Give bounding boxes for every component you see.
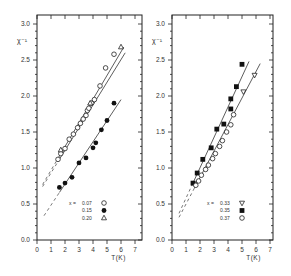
data-point-0-15 [57, 185, 62, 190]
data-point-0-37 [231, 112, 236, 117]
legend-marker [240, 201, 245, 206]
y-axis-label: χ⁻¹ [17, 37, 28, 45]
data-point-0-15 [112, 101, 117, 106]
x-tick-label: 1 [49, 246, 53, 253]
data-point-0-37 [210, 156, 215, 161]
left-panel: 012345670.00.51.01.52.02.53.0χ⁻¹T(K)x =0… [17, 15, 142, 262]
data-point-0-15 [84, 156, 89, 161]
x-axis-label: T(K) [246, 254, 261, 262]
data-point-0-37 [229, 123, 234, 128]
x-tick-label: 2 [63, 246, 67, 253]
data-point-0-07 [103, 66, 108, 71]
x-tick-label: 7 [133, 246, 137, 253]
data-point-0-37 [213, 151, 218, 156]
legend-marker [240, 208, 245, 213]
fit-0.15-line [59, 100, 121, 193]
y-tick-label: 2.5 [21, 56, 30, 63]
legend-label: 0.20 [82, 215, 92, 221]
legend-prefix: x = [69, 200, 76, 206]
y-tick-label: 0.0 [21, 236, 30, 243]
y-tick-label: 1.0 [156, 164, 165, 171]
legend-marker [240, 216, 245, 221]
x-tick-label: 0 [35, 246, 39, 253]
data-point-0-37 [220, 138, 225, 143]
x-tick-label: 5 [240, 246, 244, 253]
data-point-0-20 [119, 44, 124, 49]
chart-figure: 012345670.00.51.01.52.02.53.0χ⁻¹T(K)x =0… [0, 0, 291, 276]
data-point-0-07 [56, 157, 61, 162]
data-point-0-37 [194, 183, 199, 188]
x-tick-label: 1 [184, 246, 188, 253]
data-point-0-35 [228, 107, 233, 112]
data-point-0-15 [105, 118, 110, 123]
data-point-0-07 [67, 137, 72, 142]
fit-0.20-extrapolation [43, 159, 60, 186]
x-tick-label: 6 [119, 246, 123, 253]
y-tick-label: 0.5 [156, 200, 165, 207]
y-tick-label: 2.5 [156, 56, 165, 63]
legend-marker [102, 208, 107, 213]
data-point-0-15 [93, 140, 98, 145]
x-tick-label: 5 [105, 246, 109, 253]
x-tick-label: 3 [77, 246, 81, 253]
data-point-0-35 [214, 127, 219, 132]
y-tick-label: 3.0 [156, 20, 165, 27]
legend-marker [102, 215, 107, 220]
fit-0.15-extrapolation [44, 192, 59, 215]
data-point-0-15 [99, 127, 104, 132]
data-point-0-07 [71, 132, 76, 137]
data-point-0-35 [234, 84, 239, 89]
x-tick-label: 6 [254, 246, 258, 253]
y-tick-label: 0.5 [21, 200, 30, 207]
data-point-0-37 [206, 163, 211, 168]
y-tick-label: 1.5 [21, 128, 30, 135]
data-point-0-37 [224, 130, 229, 135]
legend-prefix: x = [207, 200, 214, 206]
y-tick-label: 3.0 [21, 20, 30, 27]
data-point-0-35 [228, 96, 233, 101]
fit-0.07-extrapolation [43, 161, 57, 185]
plot-frame [172, 15, 273, 240]
data-point-0-07 [75, 125, 80, 130]
fit-0.33-extrapolation [179, 188, 194, 217]
data-point-0-35 [209, 145, 214, 150]
plot-frame [37, 15, 142, 240]
y-tick-label: 1.5 [156, 128, 165, 135]
legend-label: 0.37 [220, 215, 230, 221]
data-point-0-35 [200, 157, 205, 162]
data-point-0-07 [63, 146, 68, 151]
legend-marker [102, 201, 107, 206]
x-tick-label: 0 [170, 246, 174, 253]
data-point-0-37 [196, 179, 201, 184]
x-tick-label: 3 [212, 246, 216, 253]
data-point-0-07 [98, 84, 103, 89]
legend-label: 0.33 [220, 200, 230, 206]
y-tick-label: 0.0 [156, 236, 165, 243]
data-point-0-07 [87, 106, 92, 111]
data-point-0-07 [92, 97, 97, 102]
y-tick-label: 1.0 [21, 164, 30, 171]
legend-label: 0.15 [82, 207, 92, 213]
data-point-0-07 [112, 52, 117, 57]
fit-0.35-extrapolation [179, 186, 192, 213]
data-point-0-35 [221, 122, 226, 127]
data-point-0-37 [203, 167, 208, 172]
data-point-0-35 [240, 62, 245, 67]
x-tick-label: 2 [198, 246, 202, 253]
x-tick-label: 4 [91, 246, 95, 253]
right-panel: 012345670.00.51.01.52.02.53.0χ⁻¹T(K)x =0… [152, 15, 273, 262]
data-point-0-15 [77, 161, 82, 166]
data-point-0-37 [217, 144, 222, 149]
data-point-0-37 [199, 173, 204, 178]
legend-label: 0.07 [82, 200, 92, 206]
y-tick-label: 2.0 [21, 92, 30, 99]
fit-0.35-line [192, 61, 249, 186]
legend-label: 0.35 [220, 207, 230, 213]
x-axis-label: T(K) [111, 254, 126, 262]
y-tick-label: 2.0 [156, 92, 165, 99]
data-point-0-15 [63, 181, 68, 186]
data-point-0-15 [70, 175, 75, 180]
data-point-0-15 [91, 145, 96, 150]
data-point-0-07 [84, 113, 89, 118]
x-tick-label: 7 [268, 246, 272, 253]
